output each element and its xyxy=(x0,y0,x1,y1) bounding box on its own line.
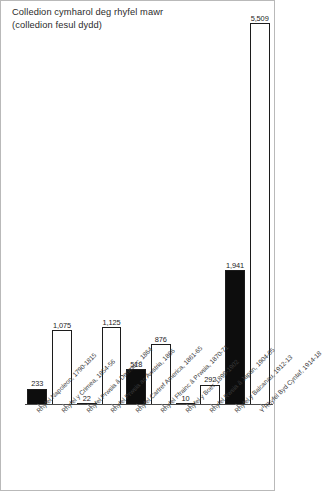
bar-9: 1,941 xyxy=(225,270,245,405)
bar-value-label: 1,125 xyxy=(102,319,120,327)
bar-value-label: 5,509 xyxy=(251,15,269,23)
bar-5: 518 xyxy=(126,369,146,405)
bar-4: 1,125 xyxy=(102,327,122,405)
bar-10: 5,509 xyxy=(250,23,270,405)
bar-value-label: 1,941 xyxy=(226,262,244,270)
bar-2: 1,075 xyxy=(52,330,72,405)
bar-8: 292 xyxy=(200,385,220,405)
bar-value-label: 233 xyxy=(31,380,43,388)
bar-value-label: 292 xyxy=(204,376,216,384)
chart-frame: Colledion cymharol deg rhyfel mawr(colle… xyxy=(0,0,275,491)
plot-area: 2331,075221,125518876102921,9415,509 xyxy=(25,9,272,405)
bar-value-label: 1,075 xyxy=(53,322,71,330)
bar-value-label: 518 xyxy=(130,361,142,369)
bar-6: 876 xyxy=(151,344,171,405)
bar-value-label: 876 xyxy=(155,336,167,344)
bar-value-label: 22 xyxy=(83,395,91,403)
bar-value-label: 10 xyxy=(182,395,190,403)
